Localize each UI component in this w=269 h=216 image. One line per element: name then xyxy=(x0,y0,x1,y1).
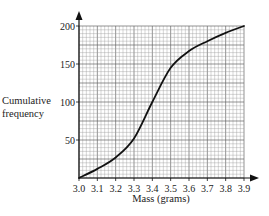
cumulative-frequency-chart: 3.03.13.23.33.43.53.63.73.83.9 501001502… xyxy=(0,0,269,216)
x-tick-label: 3.9 xyxy=(238,183,251,194)
x-axis-arrow-icon xyxy=(250,175,259,182)
grid xyxy=(79,26,244,178)
x-tick-labels: 3.03.13.23.33.43.53.63.73.83.9 xyxy=(73,178,251,194)
y-tick-label: 100 xyxy=(60,97,75,108)
x-axis-label: Mass (grams) xyxy=(132,193,190,205)
x-tick-label: 3.7 xyxy=(201,183,214,194)
x-tick-label: 3.0 xyxy=(73,183,86,194)
y-tick-labels: 50100150200 xyxy=(60,21,79,146)
y-axis-arrow-icon xyxy=(76,11,83,20)
y-axis-label-line1: Cumulative xyxy=(2,95,51,106)
x-tick-label: 3.2 xyxy=(109,183,122,194)
y-tick-label: 50 xyxy=(65,135,75,146)
axes xyxy=(76,11,260,182)
y-axis-label-line2: frequency xyxy=(2,108,45,119)
x-tick-label: 3.1 xyxy=(91,183,104,194)
y-tick-label: 150 xyxy=(60,59,75,70)
x-tick-label: 3.8 xyxy=(219,183,232,194)
y-tick-label: 200 xyxy=(60,21,75,32)
